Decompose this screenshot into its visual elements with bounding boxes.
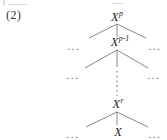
edge-second-left (85, 50, 117, 68)
node-base: X (111, 35, 119, 49)
node-base: X (111, 10, 119, 24)
node-x-power-p-minus-1: Xp-1 (111, 36, 130, 49)
node-x-leaf: X (114, 126, 122, 139)
node-superscript: p-1 (119, 34, 130, 43)
ellipsis-row2-right: ... (148, 41, 161, 52)
tree-edges (0, 0, 167, 140)
ellipsis-row3-left: ... (66, 70, 79, 81)
ellipsis-row5-right: ... (148, 129, 161, 140)
figure-canvas: (2) Xp Xp-1 Xr X ... ... ... ... ... ... (0, 0, 167, 140)
ellipsis-row3-right: ... (147, 70, 160, 81)
node-base: X (114, 125, 122, 139)
node-x-power-p: Xp (111, 11, 123, 24)
ellipsis-row5-left: ... (66, 129, 79, 140)
node-x-power-r: Xr (112, 98, 123, 111)
node-superscript: p (119, 9, 123, 18)
edge-xr-left (86, 112, 117, 127)
node-superscript: r (120, 96, 123, 105)
edge-second-right (117, 50, 148, 68)
node-base: X (112, 97, 120, 111)
ellipsis-row2-left: ... (67, 41, 80, 52)
